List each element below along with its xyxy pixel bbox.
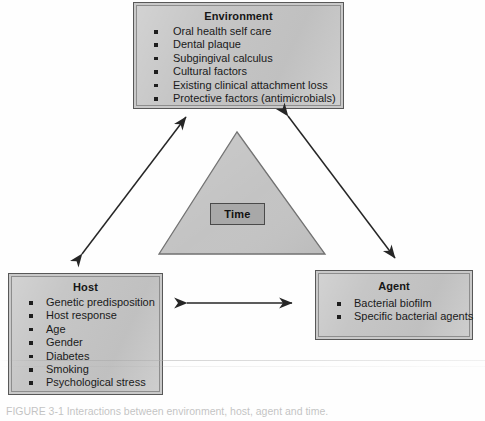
list-item: Age bbox=[18, 323, 153, 336]
list-item: Smoking bbox=[18, 363, 153, 376]
list-item-label: Host response bbox=[46, 309, 117, 321]
list-item-label: Smoking bbox=[46, 363, 89, 375]
time-label: Time bbox=[224, 208, 250, 220]
list-item-label: Subgingival calculus bbox=[173, 52, 273, 64]
list-item-label: Psychological stress bbox=[46, 376, 146, 388]
environment-box: Environment Oral health self care Dental… bbox=[133, 2, 344, 109]
list-item-label: Age bbox=[46, 323, 66, 335]
list-item: Diabetes bbox=[18, 350, 153, 363]
list-item: Specific bacterial agents bbox=[325, 310, 463, 323]
bullet-square-icon bbox=[154, 57, 158, 61]
bullet-square-icon bbox=[154, 30, 158, 34]
agent-box: Agent Bacterial biofilm Specific bacteri… bbox=[315, 270, 473, 340]
agent-list: Bacterial biofilm Specific bacterial age… bbox=[325, 297, 463, 324]
host-box: Host Genetic predisposition Host respons… bbox=[8, 273, 163, 395]
list-item-label: Protective factors (antimicrobials) bbox=[173, 92, 336, 104]
bullet-square-icon bbox=[154, 70, 158, 74]
bullet-square-icon bbox=[337, 315, 341, 319]
center-triangle bbox=[155, 128, 330, 260]
list-item-label: Dental plaque bbox=[173, 38, 241, 50]
list-item: Existing clinical attachment loss bbox=[143, 79, 334, 92]
bullet-square-icon bbox=[337, 302, 341, 306]
list-item-label: Oral health self care bbox=[173, 25, 271, 37]
bullet-square-icon bbox=[29, 301, 33, 305]
list-item: Protective factors (antimicrobials) bbox=[143, 92, 334, 105]
environment-title: Environment bbox=[143, 10, 334, 22]
agent-title: Agent bbox=[325, 280, 463, 292]
host-list: Genetic predisposition Host response Age… bbox=[18, 296, 153, 390]
bullet-square-icon bbox=[29, 341, 33, 345]
host-title: Host bbox=[18, 281, 153, 293]
list-item: Oral health self care bbox=[143, 25, 334, 38]
list-item: Host response bbox=[18, 309, 153, 322]
list-item: Gender bbox=[18, 336, 153, 349]
list-item: Cultural factors bbox=[143, 65, 334, 78]
bullet-square-icon bbox=[29, 368, 33, 372]
list-item-label: Gender bbox=[46, 336, 83, 348]
list-item-label: Bacterial biofilm bbox=[354, 297, 432, 309]
figure-caption: FIGURE 3-1 Interactions between environm… bbox=[6, 406, 476, 421]
bullet-square-icon bbox=[154, 43, 158, 47]
bullet-square-icon bbox=[154, 97, 158, 101]
list-item: Psychological stress bbox=[18, 376, 153, 389]
bullet-square-icon bbox=[154, 84, 158, 88]
list-item-label: Existing clinical attachment loss bbox=[173, 79, 328, 91]
bullet-square-icon bbox=[29, 314, 33, 318]
list-item-label: Diabetes bbox=[46, 350, 89, 362]
figure-canvas: Environment Oral health self care Dental… bbox=[0, 0, 485, 421]
triangle-shading bbox=[159, 132, 325, 254]
list-item-label: Specific bacterial agents bbox=[354, 310, 473, 322]
environment-box-inner: Environment Oral health self care Dental… bbox=[136, 5, 341, 106]
list-item-label: Cultural factors bbox=[173, 65, 247, 77]
bullet-square-icon bbox=[29, 381, 33, 385]
list-item: Bacterial biofilm bbox=[325, 297, 463, 310]
host-box-inner: Host Genetic predisposition Host respons… bbox=[11, 276, 160, 392]
list-item-label: Genetic predisposition bbox=[46, 296, 155, 308]
environment-list: Oral health self care Dental plaque Subg… bbox=[143, 25, 334, 105]
list-item: Genetic predisposition bbox=[18, 296, 153, 309]
list-item: Subgingival calculus bbox=[143, 52, 334, 65]
time-box: Time bbox=[210, 203, 265, 225]
figure-caption-text: FIGURE 3-1 Interactions between environm… bbox=[6, 406, 476, 417]
bullet-square-icon bbox=[29, 328, 33, 332]
agent-box-inner: Agent Bacterial biofilm Specific bacteri… bbox=[318, 273, 470, 337]
bullet-square-icon bbox=[29, 355, 33, 359]
list-item: Dental plaque bbox=[143, 38, 334, 51]
